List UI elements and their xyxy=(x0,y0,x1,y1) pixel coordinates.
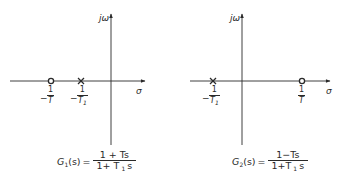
right-formula-numerator: 1−Ts xyxy=(274,150,301,160)
right-real-axis-label: σ xyxy=(326,87,332,96)
right-zero-label-num: 1 xyxy=(298,86,305,95)
right-formula-fraction: 1−Ts 1+T1s xyxy=(268,150,309,173)
left-transfer-function: G1(s) = 1 + Ts 1+ T1s xyxy=(57,150,136,173)
right-pole-label-num: 1 xyxy=(211,86,218,95)
right-formula-lhs: G2(s) xyxy=(232,156,256,168)
left-zero-label-den: T xyxy=(47,95,54,105)
left-pole-label-num: 1 xyxy=(79,86,86,95)
left-formula-denominator: 1+ T1s xyxy=(93,160,137,173)
left-imag-axis-label: jω xyxy=(99,14,109,23)
right-imag-axis-label: jω xyxy=(230,14,240,23)
left-pole-label-den: T1T1 xyxy=(77,95,88,106)
right-zero-label: 1 T xyxy=(298,86,305,105)
left-zero-marker xyxy=(48,78,53,83)
left-zero-label: 1 T xyxy=(47,86,54,105)
right-zero-label-den: T xyxy=(298,95,305,105)
right-transfer-function: G2(s) = 1−Ts 1+T1s xyxy=(232,150,308,173)
right-pole-label: 1 T1T1 xyxy=(209,86,220,106)
right-formula-equals: = xyxy=(258,156,266,167)
left-formula-fraction: 1 + Ts 1+ T1s xyxy=(93,150,137,173)
right-zero-marker xyxy=(299,78,304,83)
right-formula-denominator: 1+T1s xyxy=(268,160,309,173)
left-formula-lhs: G1(s) xyxy=(57,156,81,168)
right-pole-label-den: T1T1 xyxy=(209,95,220,106)
left-zero-label-num: 1 xyxy=(47,86,54,95)
left-real-axis-label: σ xyxy=(136,87,142,96)
left-formula-equals: = xyxy=(83,156,91,167)
left-formula-numerator: 1 + Ts xyxy=(98,150,131,160)
left-pole-label: 1 T1T1 xyxy=(77,86,88,106)
